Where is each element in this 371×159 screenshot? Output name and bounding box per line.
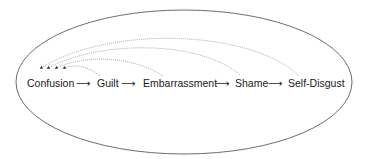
arc-embarrassment-to-confusion (56, 59, 163, 76)
node-shame: Shame (235, 77, 268, 89)
emotion-diagram: Confusion ⟶ Guilt ⟶ Embarrassment ⟶ Sham… (0, 0, 371, 159)
arc-self-disgust-to-confusion (41, 38, 298, 75)
node-embarrassment: Embarrassment (143, 77, 217, 89)
arrow-right-icon: ⟶ (268, 78, 282, 89)
arrow-right-icon: ⟶ (215, 78, 229, 89)
arrow-right-icon: ⟶ (76, 78, 90, 89)
node-confusion: Confusion (27, 77, 74, 89)
feedback-arcs (41, 38, 298, 76)
arc-guilt-to-confusion (64, 66, 100, 76)
arrow-right-icon: ⟶ (121, 78, 135, 89)
node-guilt: Guilt (97, 77, 119, 89)
node-self-disgust: Self-Disgust (288, 77, 345, 89)
